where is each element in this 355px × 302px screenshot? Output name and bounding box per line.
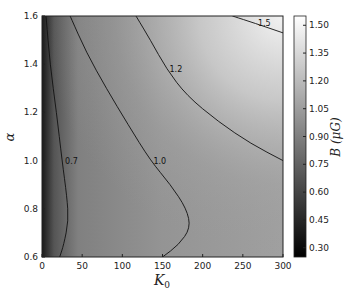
y-tick-label: 1.6 bbox=[24, 11, 39, 21]
colorbar-tick-label: 0.60 bbox=[309, 187, 329, 197]
contour-label: 1.0 bbox=[153, 157, 166, 166]
colorbar-tick-label: 1.35 bbox=[309, 48, 329, 58]
y-tick-label: 0.8 bbox=[24, 204, 39, 214]
contour-label: 1.5 bbox=[258, 19, 271, 28]
colorbar-tick-label: 1.05 bbox=[309, 104, 329, 114]
x-tick-label: 100 bbox=[114, 261, 131, 271]
x-tick-label: 250 bbox=[234, 261, 251, 271]
contour-label: 1.2 bbox=[170, 65, 183, 74]
colorbar-tick-label: 0.90 bbox=[309, 132, 329, 142]
y-tick-label: 1.4 bbox=[24, 59, 39, 69]
plot-area: 0.71.01.21.5 bbox=[42, 16, 283, 257]
y-tick-label: 0.6 bbox=[24, 252, 39, 262]
colorbar: 0.300.450.600.750.901.051.201.351.50 B (… bbox=[294, 16, 343, 257]
x-tick-label: 50 bbox=[76, 261, 88, 271]
heatmap-chart: 0.71.01.21.5 050100150200250300 0.60.81.… bbox=[0, 0, 355, 302]
x-tick-label: 150 bbox=[154, 261, 171, 271]
colorbar-tick-label: 0.45 bbox=[309, 215, 329, 225]
colorbar-tick-label: 0.30 bbox=[309, 243, 329, 253]
colorbar-tick-label: 1.20 bbox=[309, 76, 329, 86]
x-tick-label: 0 bbox=[39, 261, 45, 271]
y-tick-label: 1.0 bbox=[24, 156, 39, 166]
colorbar-tick-label: 0.75 bbox=[309, 159, 329, 169]
x-tick-label: 200 bbox=[194, 261, 211, 271]
y-tick-label: 1.2 bbox=[24, 107, 38, 117]
y-axis-label: α bbox=[2, 132, 17, 141]
contour-label: 0.7 bbox=[65, 157, 78, 166]
colorbar-label: B (μG) bbox=[329, 117, 343, 158]
colorbar-tick-label: 1.50 bbox=[309, 20, 329, 30]
x-tick-label: 300 bbox=[274, 261, 291, 271]
x-axis-label: K0 bbox=[153, 272, 170, 290]
